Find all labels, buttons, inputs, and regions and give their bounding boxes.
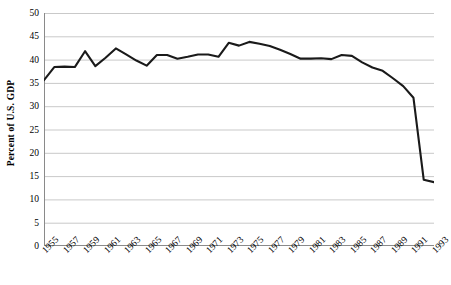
y-tick-label: 50 [30, 8, 40, 18]
y-tick-label: 20 [30, 148, 40, 158]
y-tick-label: 15 [30, 171, 40, 181]
y-axis-title: Percent of U.S. GDP [0, 0, 22, 245]
data-series-line [44, 42, 434, 182]
y-tick-label: 25 [30, 125, 40, 135]
y-tick-label: 10 [30, 194, 40, 204]
x-axis-tick-labels: 1955195719591961196319651967196919711973… [44, 248, 439, 285]
y-axis-title-text: Percent of U.S. GDP [6, 79, 16, 166]
y-tick-label: 35 [30, 78, 40, 88]
plot-area [44, 13, 434, 246]
y-tick-label: 5 [34, 218, 39, 228]
y-tick-label: 45 [30, 31, 40, 41]
y-tick-label: 40 [30, 55, 40, 65]
y-axis-tick-labels: 05101520253035404550 [20, 0, 42, 250]
y-tick-label: 30 [30, 101, 40, 111]
plot-svg [44, 13, 434, 246]
y-tick-label: 0 [34, 241, 39, 251]
